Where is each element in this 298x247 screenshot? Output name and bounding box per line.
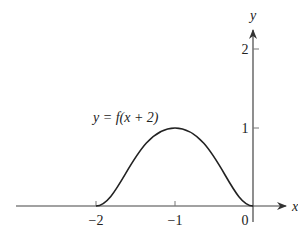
curve-annotation: y = f(x + 2) [91, 110, 159, 126]
chart-canvas: −2 −1 0 1 2 x y y = f(x + 2) [0, 0, 298, 247]
curve-f-x-plus-2 [96, 128, 253, 206]
x-tick-label-m1: −1 [168, 213, 183, 228]
y-axis-label: y [248, 8, 257, 23]
x-axis-label: x [291, 199, 298, 214]
y-tick-label-2: 2 [242, 42, 249, 57]
x-tick-label-0: 0 [242, 213, 249, 228]
y-tick-label-1: 1 [242, 121, 249, 136]
x-tick-label-m2: −2 [89, 213, 104, 228]
